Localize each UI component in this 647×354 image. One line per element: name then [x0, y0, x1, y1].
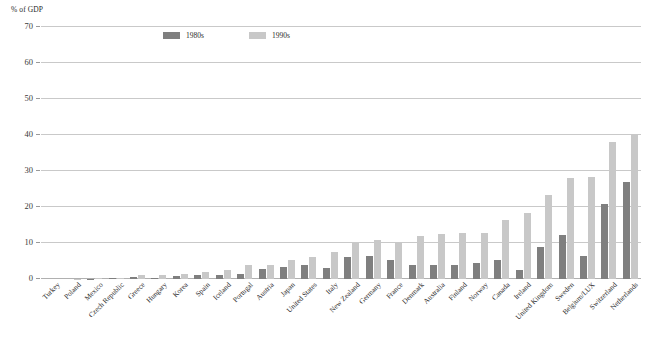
bar[interactable]: [138, 275, 145, 279]
bar-group[interactable]: [151, 27, 166, 279]
bar[interactable]: [537, 247, 544, 279]
bar-group[interactable]: [623, 27, 638, 279]
bar-group[interactable]: [473, 27, 488, 279]
bar-group[interactable]: [44, 27, 59, 279]
bar[interactable]: [417, 236, 424, 279]
y-tick-mark-40: [36, 134, 40, 135]
y-tick-mark-20: [36, 206, 40, 207]
bar[interactable]: [323, 268, 330, 279]
bar[interactable]: [301, 265, 308, 279]
bar[interactable]: [245, 265, 252, 279]
bar[interactable]: [545, 195, 552, 279]
bar[interactable]: [567, 178, 574, 279]
y-tick-mark-30: [36, 170, 40, 171]
bar-group[interactable]: [601, 27, 616, 279]
bar[interactable]: [494, 260, 501, 279]
bar[interactable]: [631, 134, 638, 279]
bar[interactable]: [194, 275, 201, 279]
x-axis-label: Korea: [172, 281, 190, 299]
x-axis-label: Denmark: [401, 281, 425, 305]
x-axis-label: Canada: [490, 281, 511, 302]
bar[interactable]: [473, 263, 480, 279]
x-axis-label: Portugal: [231, 281, 254, 304]
bar-group[interactable]: [301, 27, 316, 279]
bar[interactable]: [259, 269, 266, 279]
bar[interactable]: [280, 267, 287, 279]
bar[interactable]: [609, 142, 616, 279]
bar[interactable]: [117, 278, 124, 279]
bar[interactable]: [267, 265, 274, 279]
bar-group[interactable]: [430, 27, 445, 279]
bar-group[interactable]: [344, 27, 359, 279]
bar[interactable]: [438, 234, 445, 279]
bar[interactable]: [181, 274, 188, 279]
bar[interactable]: [159, 275, 166, 279]
y-tick-mark-60: [36, 62, 40, 63]
bar[interactable]: [344, 257, 351, 279]
bar[interactable]: [395, 242, 402, 279]
bar[interactable]: [601, 204, 608, 279]
x-axis-label: Finland: [447, 281, 468, 302]
bar-group[interactable]: [323, 27, 338, 279]
bar[interactable]: [623, 182, 630, 279]
x-axis-label: Iceland: [212, 281, 232, 301]
bar-group[interactable]: [580, 27, 595, 279]
bar[interactable]: [173, 276, 180, 279]
bar[interactable]: [502, 220, 509, 279]
bar[interactable]: [224, 270, 231, 279]
bar[interactable]: [430, 265, 437, 279]
bar[interactable]: [202, 272, 209, 279]
bar-group[interactable]: [109, 27, 124, 279]
bar[interactable]: [366, 256, 373, 279]
bar[interactable]: [109, 278, 116, 279]
bar[interactable]: [524, 213, 531, 279]
y-tick-label-40: 40: [25, 129, 34, 139]
bar-group[interactable]: [516, 27, 531, 279]
bar-group[interactable]: [87, 27, 102, 279]
bar[interactable]: [559, 235, 566, 279]
bar[interactable]: [352, 243, 359, 279]
bar-group[interactable]: [216, 27, 231, 279]
bar-group[interactable]: [194, 27, 209, 279]
y-tick-label-10: 10: [25, 237, 34, 247]
bar[interactable]: [459, 233, 466, 279]
bar[interactable]: [237, 274, 244, 279]
bar-group[interactable]: [451, 27, 466, 279]
bar-group[interactable]: [494, 27, 509, 279]
bar-group[interactable]: [409, 27, 424, 279]
x-axis-label: Hungary: [145, 281, 168, 304]
bar[interactable]: [409, 265, 416, 279]
bar-group[interactable]: [237, 27, 252, 279]
bar-group[interactable]: [173, 27, 188, 279]
bar-group[interactable]: [537, 27, 552, 279]
bar-group[interactable]: [130, 27, 145, 279]
bar-group[interactable]: [366, 27, 381, 279]
y-axis-title: % of GDP: [11, 5, 43, 14]
x-axis-label: Germany: [358, 281, 382, 305]
bar-group[interactable]: [387, 27, 402, 279]
bar[interactable]: [130, 277, 137, 279]
bar-group[interactable]: [259, 27, 274, 279]
x-axis-label: Norway: [468, 281, 490, 303]
x-axis-label: Italy: [325, 281, 340, 296]
bar[interactable]: [309, 257, 316, 279]
bar-group[interactable]: [559, 27, 574, 279]
bar[interactable]: [588, 177, 595, 279]
plot-area: 010203040506070: [41, 27, 641, 279]
bar[interactable]: [481, 233, 488, 279]
y-tick-label-70: 70: [25, 21, 34, 31]
bar[interactable]: [95, 278, 102, 279]
bar[interactable]: [151, 278, 158, 279]
bar[interactable]: [288, 260, 295, 279]
bar[interactable]: [387, 260, 394, 279]
bar[interactable]: [374, 240, 381, 279]
x-axis-label: Austria: [255, 281, 275, 301]
x-axis-label: Australia: [423, 281, 447, 305]
bar-group[interactable]: [66, 27, 81, 279]
bar-group[interactable]: [280, 27, 295, 279]
bar[interactable]: [216, 275, 223, 279]
bar[interactable]: [580, 256, 587, 279]
bar[interactable]: [331, 252, 338, 279]
bar[interactable]: [516, 270, 523, 279]
bar[interactable]: [451, 265, 458, 279]
